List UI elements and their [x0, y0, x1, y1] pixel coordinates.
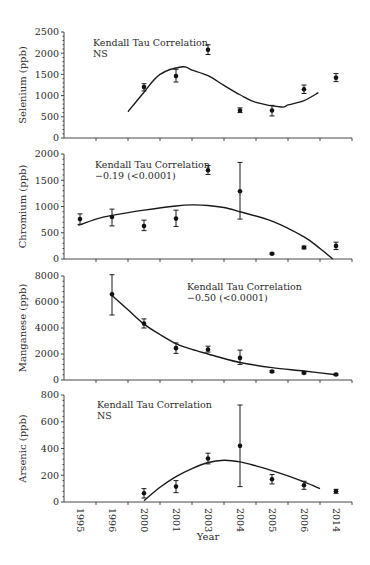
y-tick-label: 500 [41, 227, 59, 238]
marker [270, 369, 275, 374]
x-tick-label: 2000 [139, 508, 150, 532]
marker [334, 244, 339, 249]
x-tick-label: 2001 [171, 508, 182, 532]
data-point [142, 489, 147, 498]
y-tick-label: 0 [53, 253, 59, 264]
y-tick-label: 800 [41, 389, 59, 400]
y-tick-label: 1000 [35, 201, 59, 212]
correlation-annotation: −0.50 (<0.0001) [187, 292, 268, 303]
y-tick-label: 2000 [35, 48, 59, 59]
marker [206, 48, 211, 53]
marker [238, 356, 243, 361]
marker [270, 477, 275, 482]
marker [142, 85, 147, 90]
data-point [270, 251, 275, 256]
correlation-annotation: NS [97, 410, 112, 421]
marker [334, 75, 339, 80]
data-point [206, 346, 211, 352]
trend-curve [144, 460, 320, 500]
data-point [270, 369, 275, 374]
marker [302, 483, 307, 488]
panel-arsenic: 0200400600800Arsenic (ppb)Kendall Tau Co… [17, 389, 352, 542]
y-tick-label: 400 [41, 443, 59, 454]
y-tick-label: 1500 [35, 175, 59, 186]
data-point [238, 405, 243, 487]
marker [238, 108, 243, 113]
data-point [174, 210, 179, 226]
y-axis-title: Chromium (ppb) [17, 165, 28, 249]
marker [270, 108, 275, 113]
data-point [174, 481, 179, 493]
y-tick-label: 0 [53, 496, 59, 507]
marker [270, 251, 275, 256]
data-point [142, 319, 147, 328]
y-tick-label: 1500 [35, 69, 59, 80]
marker [334, 489, 339, 494]
data-point [334, 489, 339, 494]
y-axis-title: Manganese (ppb) [17, 284, 28, 373]
y-tick-label: 0 [53, 374, 59, 385]
y-tick-label: 500 [41, 111, 59, 122]
correlation-annotation: Kendall Tau Correlation [187, 281, 302, 292]
y-tick-label: 2000 [35, 348, 59, 359]
x-tick-label: 1996 [107, 508, 118, 532]
data-point [334, 372, 339, 377]
marker [206, 168, 211, 173]
panel-selenium: 05001000150020002500Selenium (ppb)Kendal… [17, 26, 352, 143]
y-tick-label: 1000 [35, 90, 59, 101]
y-axis-title: Arsenic (ppb) [17, 414, 28, 484]
data-point [174, 69, 179, 82]
x-axis-title: Year [196, 531, 220, 542]
x-tick-label: 2006 [299, 508, 310, 532]
y-tick-label: 0 [53, 132, 59, 143]
marker [206, 347, 211, 352]
marker [302, 371, 307, 376]
correlation-annotation: −0.19 (<0.0001) [95, 170, 176, 181]
marker [142, 224, 147, 229]
marker [174, 346, 179, 351]
correlation-annotation: Kendall Tau Correlation [95, 159, 210, 170]
marker [238, 444, 243, 449]
data-point [270, 105, 275, 116]
data-point [142, 220, 147, 231]
multi-panel-scatter-chart: 05001000150020002500Selenium (ppb)Kendal… [0, 0, 370, 565]
y-tick-label: 4000 [35, 322, 59, 333]
correlation-annotation: NS [93, 48, 108, 59]
y-axis-title: Selenium (ppb) [17, 46, 28, 124]
data-point [78, 214, 83, 225]
marker [302, 87, 307, 92]
y-tick-label: 200 [41, 470, 59, 481]
y-tick-label: 600 [41, 416, 59, 427]
marker [110, 215, 115, 220]
panel-chromium: 0500100015002000Chromium (ppb)Kendall Ta… [17, 148, 352, 264]
marker [78, 217, 83, 222]
marker [110, 292, 115, 297]
panel-manganese: 02000400060008000Manganese (ppb)Kendall … [17, 270, 352, 385]
x-tick-label: 2005 [267, 508, 278, 532]
data-point [334, 74, 339, 82]
marker [302, 245, 307, 250]
trend-curve [78, 205, 332, 259]
correlation-annotation: Kendall Tau Correlation [97, 399, 212, 410]
data-point [334, 242, 339, 249]
marker [238, 189, 243, 194]
correlation-annotation: Kendall Tau Correlation [93, 37, 208, 48]
x-tick-label: 2003 [203, 508, 214, 532]
marker [174, 74, 179, 79]
data-point [110, 275, 115, 315]
marker [206, 456, 211, 461]
x-tick-label: 2004 [235, 508, 246, 532]
x-tick-label: 2014 [331, 508, 342, 532]
y-tick-label: 2000 [35, 148, 59, 159]
marker [174, 216, 179, 221]
y-tick-label: 2500 [35, 26, 59, 37]
marker [174, 484, 179, 489]
data-point [270, 475, 275, 484]
y-tick-label: 8000 [35, 270, 59, 281]
marker [142, 491, 147, 496]
trend-curve [112, 296, 336, 375]
data-point [238, 108, 243, 113]
data-point [302, 245, 307, 250]
data-point [302, 85, 307, 93]
y-tick-label: 6000 [35, 296, 59, 307]
